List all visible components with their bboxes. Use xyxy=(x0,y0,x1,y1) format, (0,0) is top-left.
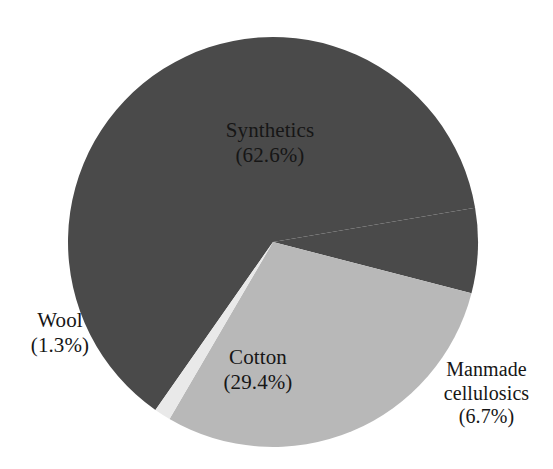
pie-label-synthetics: Synthetics (62.6%) xyxy=(185,118,355,168)
pie-label-cotton-value: (29.4%) xyxy=(183,370,333,395)
pie-label-cotton: Cotton (29.4%) xyxy=(183,345,333,395)
pie-label-wool: Wool (1.3%) xyxy=(6,308,114,358)
pie-chart-figure: Synthetics (62.6%) Cotton (29.4%) Wool (… xyxy=(0,0,553,469)
pie-label-manmade-name-line1: Manmade xyxy=(424,358,549,382)
pie-label-manmade-value: (6.7%) xyxy=(424,405,549,429)
pie-label-manmade-name-line2: cellulosics xyxy=(424,382,549,406)
pie-label-synthetics-value: (62.6%) xyxy=(185,143,355,168)
pie-label-wool-value: (1.3%) xyxy=(6,333,114,358)
pie-label-manmade-cellulosics: Manmade cellulosics (6.7%) xyxy=(424,358,549,429)
pie-label-wool-name: Wool xyxy=(6,308,114,333)
pie-label-synthetics-name: Synthetics xyxy=(185,118,355,143)
pie-label-cotton-name: Cotton xyxy=(183,345,333,370)
